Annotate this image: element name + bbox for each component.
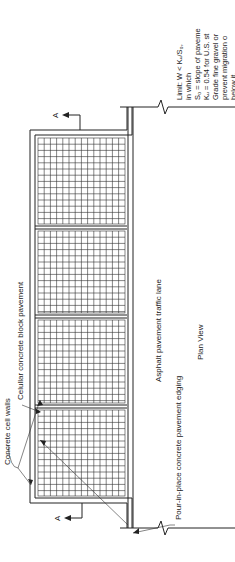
- note-line-4: prevent migration o: [220, 36, 229, 100]
- note-line-2: Kᵤ = 0.54 for U.S. st: [202, 33, 211, 100]
- note-line-5: below it.: [229, 72, 235, 100]
- plan-view-diagram: A A Concrete cell walls Celullar concret…: [0, 0, 235, 562]
- section-label-a-top: A: [51, 112, 60, 118]
- note-line-3: Grade fine gravel or: [211, 33, 220, 100]
- label-cell-walls: Concrete cell walls: [3, 398, 12, 465]
- arrow-left-icon: [62, 112, 69, 118]
- block-separators: [35, 226, 127, 408]
- note-in-which: in which: [184, 73, 193, 100]
- label-traffic-lane: Asphalt pavement traffic lane: [154, 278, 163, 382]
- section-label-a-bottom: A: [53, 515, 62, 521]
- arrow-left-icon: [64, 515, 71, 521]
- view-title: Plan View: [196, 324, 205, 360]
- label-block-pavement: Celullar concrete block pavement: [16, 281, 25, 400]
- note-line-1: S₀ = slope of paveme: [193, 28, 202, 100]
- cellular-grid: [38, 138, 125, 496]
- notes-block: Limit: W < Kᵤ/S₀, in which S₀ = slope of…: [175, 28, 235, 100]
- label-edging: Pour-in-place concrete pavement edging: [174, 376, 183, 520]
- section-marker-top: A: [51, 112, 80, 130]
- leader-lines: [8, 400, 175, 534]
- pavement-edging: [128, 107, 133, 528]
- section-marker-bottom: A: [53, 503, 82, 521]
- note-limit: Limit: W < Kᵤ/S₀,: [175, 44, 184, 100]
